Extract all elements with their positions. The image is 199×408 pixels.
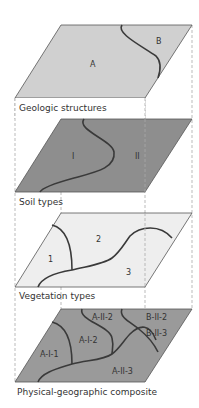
region-A-II-3: A-II-3 [112,367,133,376]
region-A-II-2: A-II-2 [92,313,113,322]
region-A-I-1: A-I-1 [40,350,59,359]
layer-label-soil: Soil types [19,197,63,208]
layer-label-composite: Physical-geographic composite [17,387,157,398]
region-A: A [90,60,95,69]
region-1: 1 [48,255,53,264]
layer-label-geologic: Geologic structures [19,103,107,114]
region-A-I-2: A-I-2 [79,336,98,345]
region-B-II-2: B-II-2 [146,313,167,322]
layer-soil [15,119,192,192]
layer-vegetation [15,213,192,287]
layer-label-vegetation: Vegetation types [19,291,95,302]
region-I: I [72,152,74,161]
region-3: 3 [126,268,131,277]
region-II: II [135,152,140,161]
region-2: 2 [96,235,101,244]
region-B: B [156,37,162,46]
region-B-II-3: B-II-3 [146,329,167,338]
